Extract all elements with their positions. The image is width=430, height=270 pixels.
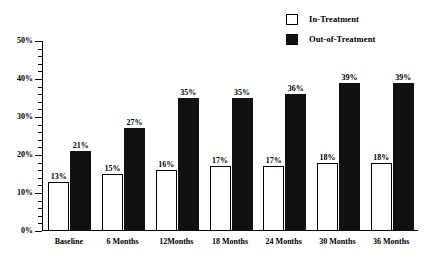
bar-value-label: 36% — [288, 85, 304, 93]
x-tick-label: 24 Months — [257, 238, 311, 246]
bar-out-of-treatment: 27% — [124, 128, 145, 231]
bar-in-treatment: 13% — [48, 182, 69, 231]
bar-group: 18%39% — [317, 41, 360, 231]
bar-value-label: 27% — [127, 119, 143, 127]
bar-group: 17%35% — [210, 41, 253, 231]
x-axis-labels: Baseline6 Months12Months18 Months24 Mont… — [42, 238, 418, 254]
x-tick-label: 12Months — [149, 238, 203, 246]
bar-out-of-treatment: 36% — [285, 94, 306, 231]
y-tick-label: 10% — [3, 189, 33, 197]
bar-value-label: 35% — [180, 89, 196, 97]
bar-chart-figure: In-Treatment Out-of-Treatment 0%10%20%30… — [0, 0, 430, 270]
y-tick-major — [35, 79, 42, 80]
x-tick-label: 6 Months — [96, 238, 150, 246]
bar-in-treatment: 17% — [263, 166, 284, 231]
bar-group: 15%27% — [102, 41, 145, 231]
bar-out-of-treatment: 35% — [178, 98, 199, 231]
y-tick-major — [35, 41, 42, 42]
y-tick-label: 30% — [3, 113, 33, 121]
y-tick-label: 20% — [3, 151, 33, 159]
bar-in-treatment: 18% — [317, 163, 338, 231]
bar-out-of-treatment: 35% — [232, 98, 253, 231]
bar-value-label: 21% — [73, 142, 89, 150]
bar-value-label: 18% — [319, 154, 335, 162]
legend-label-in-treatment: In-Treatment — [309, 15, 359, 24]
y-tick-major — [35, 231, 42, 232]
bar-group: 16%35% — [156, 41, 199, 231]
bar-value-label: 18% — [373, 154, 389, 162]
legend-swatch-hollow-icon — [286, 14, 298, 25]
x-tick-label: Baseline — [42, 238, 96, 246]
bar-in-treatment: 16% — [156, 170, 177, 231]
legend-item-in-treatment: In-Treatment — [286, 10, 426, 28]
y-axis-labels: 0%10%20%30%40%50% — [2, 41, 33, 231]
plot-area: 0%10%20%30%40%50% 13%21%15%27%16%35%17%3… — [42, 41, 418, 231]
bar-value-label: 15% — [105, 165, 121, 173]
x-tick-label: 30 Months — [311, 238, 365, 246]
bar-value-label: 13% — [51, 173, 67, 181]
bar-value-label: 35% — [234, 89, 250, 97]
y-tick-label: 0% — [3, 227, 33, 235]
x-tick-label: 18 Months — [203, 238, 257, 246]
bar-in-treatment: 17% — [210, 166, 231, 231]
bar-value-label: 39% — [395, 74, 411, 82]
bar-value-label: 39% — [341, 74, 357, 82]
bar-value-label: 17% — [266, 157, 282, 165]
bar-value-label: 16% — [158, 161, 174, 169]
bar-value-label: 17% — [212, 157, 228, 165]
bars-layer: 13%21%15%27%16%35%17%35%17%36%18%39%18%3… — [42, 41, 418, 231]
bar-group: 13%21% — [48, 41, 91, 231]
x-tick-label: 36 Months — [364, 238, 418, 246]
y-tick-major — [35, 117, 42, 118]
y-tick-label: 50% — [3, 37, 33, 45]
bar-in-treatment: 18% — [371, 163, 392, 231]
bar-out-of-treatment: 39% — [339, 83, 360, 231]
bar-out-of-treatment: 39% — [393, 83, 414, 231]
y-tick-major — [35, 155, 42, 156]
y-tick-major — [35, 193, 42, 194]
bar-group: 17%36% — [263, 41, 306, 231]
bar-in-treatment: 15% — [102, 174, 123, 231]
bar-out-of-treatment: 21% — [70, 151, 91, 231]
bar-group: 18%39% — [371, 41, 414, 231]
y-tick-label: 40% — [3, 75, 33, 83]
